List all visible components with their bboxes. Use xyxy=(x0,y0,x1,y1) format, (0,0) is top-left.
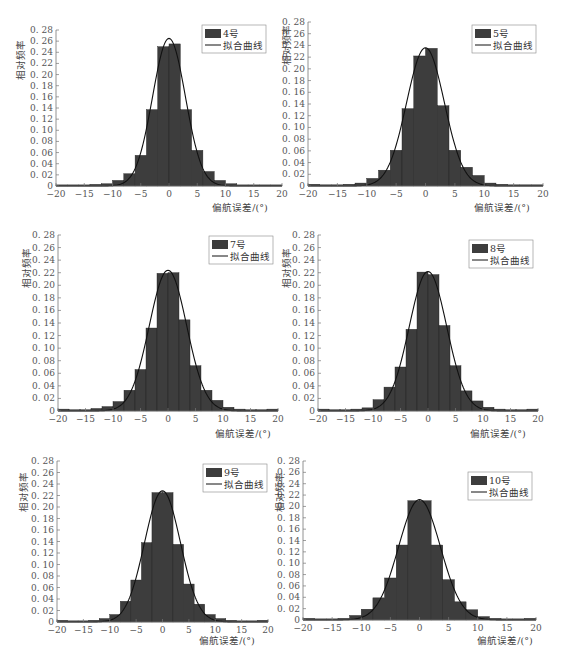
y-tick-label: 0. 12 xyxy=(30,114,53,124)
y-tick-label: 0. 08 xyxy=(292,356,315,366)
x-tick-label: 20 xyxy=(530,623,542,633)
y-tick-label: 0. 18 xyxy=(277,513,300,523)
x-tick-label: −5 xyxy=(394,414,408,424)
y-tick-label: 0. 26 xyxy=(30,36,53,46)
y-tick-label: 0. 20 xyxy=(31,502,54,512)
histogram-bar xyxy=(406,329,417,411)
histogram-bar xyxy=(437,106,449,186)
y-tick-label: 0. 16 xyxy=(30,92,53,102)
x-tick-label: −15 xyxy=(75,189,94,199)
y-tick-label: 0. 04 xyxy=(282,158,305,168)
y-tick-label: 0. 08 xyxy=(31,571,54,581)
y-tick-label: 0. 18 xyxy=(31,514,54,524)
y-tick-label: 0. 06 xyxy=(31,583,54,593)
y-tick-label: 0. 04 xyxy=(292,381,315,391)
legend-swatch-bar xyxy=(206,468,222,477)
legend-label-series: 10号 xyxy=(489,475,511,486)
y-tick-label: 0. 08 xyxy=(30,136,53,146)
y-tick-label: 0. 26 xyxy=(32,243,55,253)
y-tick-label: 0. 16 xyxy=(282,87,305,97)
x-axis-title: 偏航误差/(°) xyxy=(212,202,267,213)
x-tick-label: 5 xyxy=(194,189,200,199)
x-axis-title: 偏航误差/(°) xyxy=(199,635,254,646)
y-tick-label: 0. 24 xyxy=(30,47,53,57)
histogram-bar xyxy=(152,493,163,622)
histogram-bar xyxy=(390,150,402,186)
histogram-bar xyxy=(158,47,169,186)
histogram-bar xyxy=(408,501,420,620)
x-axis-title: 偏航误差/(°) xyxy=(474,202,529,213)
y-tick-label: 0. 06 xyxy=(282,146,305,156)
legend: 4号拟合曲线 xyxy=(202,25,266,53)
legend: 8号拟合曲线 xyxy=(469,240,533,268)
y-tick-label: 0. 24 xyxy=(292,255,315,265)
x-tick-label: 5 xyxy=(193,414,199,424)
y-tick-label: 0. 12 xyxy=(292,331,315,341)
legend-label-series: 8号 xyxy=(490,243,506,254)
y-tick-label: 0. 10 xyxy=(31,560,54,570)
histogram-bar xyxy=(157,273,168,411)
x-tick-label: 10 xyxy=(210,625,222,635)
y-tick-label: 0. 16 xyxy=(292,305,315,315)
x-tick-label: −10 xyxy=(364,414,383,424)
y-tick-label: 0. 02 xyxy=(282,169,305,179)
histogram-bar xyxy=(472,401,483,411)
x-tick-label: 0 xyxy=(417,623,423,633)
legend-label-fit: 拟合曲线 xyxy=(493,40,533,51)
histogram-panel-6: 00. 020. 040. 060. 080. 100. 120. 140. 1… xyxy=(274,456,542,646)
legend-label-fit: 拟合曲线 xyxy=(230,251,270,262)
legend-label-series: 5号 xyxy=(493,28,509,39)
x-tick-label: 20 xyxy=(276,189,288,199)
x-tick-label: 10 xyxy=(472,623,484,633)
legend: 7号拟合曲线 xyxy=(209,236,273,264)
x-tick-label: 15 xyxy=(248,189,260,199)
y-tick-label: 0. 04 xyxy=(32,381,55,391)
x-tick-label: 5 xyxy=(452,189,458,199)
legend: 5号拟合曲线 xyxy=(472,25,536,53)
y-tick-label: 0. 10 xyxy=(32,343,55,353)
histogram-panel-3: 00. 020. 040. 060. 080. 100. 120. 140. 1… xyxy=(21,230,284,439)
y-axis-title: 相对频率 xyxy=(15,40,26,80)
histogram-bar xyxy=(431,545,443,620)
histogram-bar xyxy=(141,543,152,622)
legend-swatch-bar xyxy=(475,29,491,38)
y-tick-label: 0. 22 xyxy=(292,268,315,278)
y-axis-title: 相对频率 xyxy=(21,248,32,288)
legend-label-series: 4号 xyxy=(223,28,239,39)
x-tick-label: −5 xyxy=(134,414,148,424)
x-tick-label: −10 xyxy=(357,189,376,199)
y-tick-label: 0. 22 xyxy=(30,58,53,68)
histogram-bar xyxy=(124,174,135,186)
x-tick-label: 5 xyxy=(186,625,192,635)
histogram-bar xyxy=(192,150,203,186)
y-tick-label: 0. 06 xyxy=(32,368,55,378)
x-tick-label: 10 xyxy=(479,189,491,199)
y-tick-label: 0. 12 xyxy=(277,547,300,557)
legend-swatch-bar xyxy=(205,29,221,38)
histogram-bars xyxy=(308,48,543,186)
x-tick-label: 15 xyxy=(236,625,248,635)
x-tick-label: −15 xyxy=(323,623,342,633)
x-axis-title: 偏航误差/(°) xyxy=(470,428,525,439)
x-tick-label: −10 xyxy=(104,414,123,424)
y-tick-label: 0. 28 xyxy=(292,230,315,240)
y-axis-title: 相对频率 xyxy=(18,472,29,512)
x-tick-label: 20 xyxy=(532,414,544,424)
y-tick-label: 0. 10 xyxy=(30,125,53,135)
x-tick-label: 10 xyxy=(217,414,229,424)
histogram-bar xyxy=(146,328,157,411)
x-tick-label: 15 xyxy=(508,189,520,199)
y-tick-label: 0. 06 xyxy=(30,148,53,158)
y-tick-label: 0. 14 xyxy=(282,99,305,109)
y-tick-label: 0. 12 xyxy=(32,331,55,341)
histogram-bars xyxy=(56,44,282,186)
legend-swatch-bar xyxy=(471,476,487,485)
x-tick-label: 15 xyxy=(505,414,517,424)
x-tick-label: −20 xyxy=(294,623,313,633)
x-tick-label: −10 xyxy=(100,625,119,635)
y-tick-label: 0. 28 xyxy=(32,230,55,240)
y-tick-label: 0. 06 xyxy=(292,368,315,378)
histogram-bars xyxy=(303,501,536,620)
legend-swatch-bar xyxy=(472,244,488,253)
y-tick-label: 0. 10 xyxy=(292,343,315,353)
